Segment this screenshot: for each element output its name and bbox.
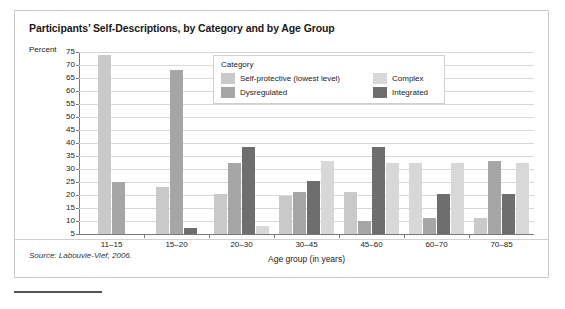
legend-item-complex: Complex	[373, 73, 424, 84]
chart-bar[interactable]	[307, 181, 320, 234]
x-axis-tick-label: 60–70	[404, 240, 469, 249]
legend-item-label: Dysregulated	[240, 88, 287, 97]
bar-group-bars	[469, 52, 534, 234]
chart-bar[interactable]	[256, 226, 269, 234]
chart-bar[interactable]	[516, 163, 529, 235]
x-axis-tick-label: 45–60	[339, 240, 404, 249]
y-axis-tick-label: 10	[66, 217, 75, 225]
x-axis-tick-label: 11–15	[79, 240, 144, 249]
y-axis-tick-label: 40	[66, 139, 75, 147]
legend-item-self-protective: Self-protective (lowest level)	[221, 73, 373, 84]
y-axis-tick-label: 5	[71, 230, 75, 238]
x-axis-tick-mark	[274, 234, 275, 238]
chart-bar[interactable]	[502, 194, 515, 234]
y-axis-title: Percent	[29, 45, 57, 54]
y-axis-tick-label: 55	[66, 100, 75, 108]
legend-item-label: Self-protective (lowest level)	[240, 74, 340, 83]
chart-bar[interactable]	[112, 182, 125, 234]
chart-bar[interactable]	[98, 55, 111, 234]
y-axis-tick-label: 20	[66, 191, 75, 199]
chart-bar[interactable]	[423, 218, 436, 234]
x-axis-tick-mark	[209, 234, 210, 238]
source-note: Source: Labouvie-Vief, 2006.	[29, 251, 132, 260]
chart-bar[interactable]	[321, 161, 334, 234]
chart-bar[interactable]	[242, 147, 255, 234]
chart-bar[interactable]	[214, 194, 227, 234]
x-axis-tick-mark	[144, 234, 145, 238]
legend-item-integrated: Integrated	[373, 87, 428, 98]
y-axis-tick-label: 60	[66, 87, 75, 95]
y-axis-tick-label: 45	[66, 126, 75, 134]
legend-swatch-icon	[221, 87, 235, 98]
bar-group-bars	[79, 52, 144, 234]
legend-title: Category	[221, 60, 438, 69]
chart-bar[interactable]	[437, 194, 450, 234]
y-axis-tick-label: 65	[66, 74, 75, 82]
x-axis-tick-label: 30–45	[274, 240, 339, 249]
y-axis-tick-label: 35	[66, 152, 75, 160]
chart-bar[interactable]	[228, 163, 241, 235]
chart-bar[interactable]	[293, 192, 306, 234]
bottom-rule	[14, 291, 102, 293]
bar-group-bars	[144, 52, 209, 234]
y-axis-tick-label: 15	[66, 204, 75, 212]
chart-bar[interactable]	[488, 161, 501, 234]
legend-row: Dysregulated Integrated	[221, 87, 438, 98]
legend-swatch-icon	[221, 73, 235, 84]
chart-bar[interactable]	[372, 147, 385, 234]
x-axis-title: Age group (in years)	[79, 254, 534, 264]
chart-bar[interactable]	[279, 196, 292, 234]
y-axis-tick-label: 75	[66, 48, 75, 56]
legend-item-label: Integrated	[392, 88, 428, 97]
x-axis-tick-mark	[469, 234, 470, 238]
chart-bar[interactable]	[184, 228, 197, 235]
legend-item-label: Complex	[392, 74, 424, 83]
gridline	[79, 234, 534, 235]
legend-row: Self-protective (lowest level) Complex	[221, 73, 438, 84]
chart-legend: Category Self-protective (lowest level) …	[213, 55, 445, 104]
page-title: Participants’ Self-Descriptions, by Cate…	[29, 22, 335, 34]
chart-bar[interactable]	[156, 187, 169, 234]
chart-bar[interactable]	[358, 221, 371, 234]
y-axis-tick-label: 25	[66, 178, 75, 186]
x-axis-tick-mark	[404, 234, 405, 238]
y-axis-tick-mark	[76, 234, 79, 235]
source-divider	[15, 239, 548, 240]
bar-group: 15–20	[144, 52, 209, 234]
bar-group: 70–85	[469, 52, 534, 234]
chart-bar[interactable]	[409, 163, 422, 235]
chart-bar[interactable]	[170, 70, 183, 234]
chart-bar[interactable]	[344, 192, 357, 234]
legend-item-dysregulated: Dysregulated	[221, 87, 373, 98]
x-axis-tick-label: 20–30	[209, 240, 274, 249]
legend-swatch-icon	[373, 73, 387, 84]
x-axis-tick-label: 70–85	[469, 240, 534, 249]
chart-bar[interactable]	[451, 163, 464, 235]
figure-card: Participants’ Self-Descriptions, by Cate…	[14, 10, 549, 278]
y-axis-tick-label: 30	[66, 165, 75, 173]
chart-bar[interactable]	[474, 218, 487, 234]
y-axis-tick-label: 50	[66, 113, 75, 121]
bar-group: 11–15	[79, 52, 144, 234]
x-axis-tick-label: 15–20	[144, 240, 209, 249]
x-axis-tick-mark	[339, 234, 340, 238]
legend-swatch-icon	[373, 87, 387, 98]
y-axis-tick-label: 70	[66, 61, 75, 69]
chart-bar[interactable]	[386, 163, 399, 235]
